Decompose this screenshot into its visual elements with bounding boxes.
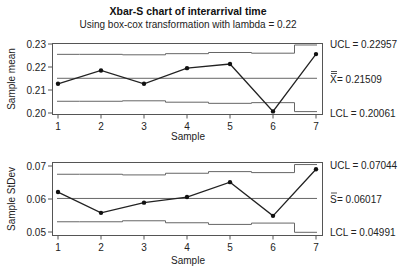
- y-tick-label: 0.20: [27, 108, 47, 119]
- y-tick-label: 0.07: [27, 161, 47, 172]
- x-tick-label: 1: [55, 242, 61, 253]
- xbar-center-symbol: X: [330, 74, 337, 85]
- x-tick-label: 2: [98, 121, 104, 132]
- x-tick-label: 2: [98, 242, 104, 253]
- x-tick-label: 1: [55, 121, 61, 132]
- x-tick-label: 3: [141, 242, 147, 253]
- data-point: [314, 167, 318, 171]
- data-point: [185, 195, 189, 199]
- stdev-x-label: Sample: [171, 255, 205, 266]
- x-tick-label: 4: [184, 121, 190, 132]
- data-point: [99, 211, 103, 215]
- x-tick-label: 6: [270, 121, 276, 132]
- data-point: [99, 68, 103, 72]
- xbar-ucl-line: [57, 45, 317, 55]
- stdev-ucl-line: [57, 165, 317, 175]
- y-tick-label: 0.06: [27, 194, 47, 205]
- stdev-series-line: [58, 169, 316, 216]
- data-point: [56, 82, 60, 86]
- xbar-center-value: = 0.21509: [337, 74, 382, 85]
- xbar-panel: 0.200.210.220.23 1234567 Sample mean Sam…: [6, 39, 398, 143]
- xbar-y-ticks: 0.200.210.220.23: [27, 39, 53, 119]
- x-tick-label: 6: [270, 242, 276, 253]
- x-tick-label: 3: [141, 121, 147, 132]
- x-tick-label: 4: [184, 242, 190, 253]
- y-tick-label: 0.05: [27, 227, 47, 238]
- stdev-lcl-label: LCL = 0.04991: [330, 227, 396, 238]
- y-tick-label: 0.22: [27, 62, 47, 73]
- data-point: [142, 200, 146, 204]
- data-point: [271, 214, 275, 218]
- chart-title: Xbar-S chart of interarrival time: [110, 5, 267, 17]
- data-point: [228, 180, 232, 184]
- x-tick-label: 7: [313, 121, 319, 132]
- stdev-y-label: Sample StDev: [6, 167, 17, 231]
- xbar-x-label: Sample: [171, 131, 205, 142]
- xbar-x-ticks: 1234567: [55, 115, 319, 132]
- stdev-ucl-label: UCL = 0.07044: [330, 160, 398, 171]
- x-tick-label: 7: [313, 242, 319, 253]
- stdev-panel: 0.050.060.07 1234567 Sample StDev Sample…: [6, 160, 398, 266]
- xbar-ucl-label: UCL = 0.22957: [330, 39, 398, 50]
- x-tick-label: 5: [227, 242, 233, 253]
- xbar-center-label: X = 0.21509: [330, 72, 382, 86]
- xbar-s-chart: Xbar-S chart of interarrival time Using …: [0, 0, 406, 279]
- data-point: [228, 62, 232, 66]
- stdev-center-label: S = 0.06017: [330, 193, 382, 205]
- xbar-lcl-label: LCL = 0.20061: [330, 108, 396, 119]
- chart-subtitle: Using box-cox transformation with lambda…: [79, 19, 296, 30]
- stdev-x-ticks: 1234567: [55, 236, 319, 253]
- stdev-center-value: = 0.06017: [337, 194, 382, 205]
- data-point: [314, 52, 318, 56]
- y-tick-label: 0.23: [27, 39, 47, 50]
- data-point: [185, 66, 189, 70]
- stdev-y-ticks: 0.050.060.07: [27, 161, 53, 238]
- data-point: [56, 190, 60, 194]
- xbar-lcl-line: [57, 101, 317, 112]
- stdev-lcl-line: [57, 221, 317, 233]
- data-point: [271, 109, 275, 113]
- stdev-center-symbol: S: [330, 194, 337, 205]
- xbar-y-label: Sample mean: [6, 48, 17, 110]
- y-tick-label: 0.21: [27, 85, 47, 96]
- data-point: [142, 82, 146, 86]
- x-tick-label: 5: [227, 121, 233, 132]
